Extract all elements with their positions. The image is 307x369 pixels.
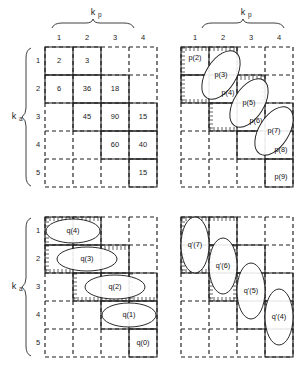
ka-label-main: k <box>12 111 17 121</box>
row-header-2: 2 <box>36 84 40 93</box>
p-label: p(5) <box>243 98 256 107</box>
kp-axis-label-right: k p <box>202 7 284 28</box>
p-label: p(2) <box>189 53 202 62</box>
panel-values: k p 1 2 3 4 k a 1 2 3 4 5 <box>12 7 157 187</box>
col-header-3: 3 <box>249 33 253 42</box>
row-header-3: 3 <box>36 112 40 121</box>
row-header-5: 5 <box>36 168 40 177</box>
p-label: p(9) <box>275 172 288 181</box>
col-header-2: 2 <box>85 33 89 42</box>
row-header-1: 1 <box>36 56 40 65</box>
ka-axis-label-bottom-left: k a <box>12 218 31 356</box>
cell-value: 15 <box>139 168 147 177</box>
cell-value: 36 <box>83 84 91 93</box>
cell-value: 6 <box>57 84 61 93</box>
column-headers-left: 1 2 3 4 <box>57 33 145 42</box>
row-header-2: 2 <box>36 254 40 263</box>
qprime-label: q'(7) <box>188 240 202 249</box>
qprime-label: q'(6) <box>216 261 230 270</box>
col-header-4: 4 <box>141 33 145 42</box>
cell-value: 18 <box>111 84 119 93</box>
ka-brace-left <box>22 48 31 186</box>
kp-brace-right <box>202 19 284 28</box>
row-header-1: 1 <box>36 226 40 235</box>
panel-p-labels: k p 1 2 3 4 <box>181 7 301 187</box>
row-headers-left: 1 2 3 4 5 <box>36 56 40 177</box>
cell-value: 90 <box>111 112 119 121</box>
ka-label-sub: a <box>19 115 23 122</box>
p-label: p(8) <box>275 145 288 154</box>
kp-axis-label-left: k p <box>52 7 134 28</box>
col-header-2: 2 <box>221 33 225 42</box>
kp-label-main-right: k <box>241 7 246 17</box>
column-headers-right: 1 2 3 4 <box>193 33 281 42</box>
ka-label-main-bl: k <box>12 281 17 291</box>
p-label: p(7) <box>268 126 281 135</box>
row-header-3: 3 <box>36 282 40 291</box>
staircase-grid-figure: k p 1 2 3 4 k a 1 2 3 4 5 <box>0 0 307 369</box>
kp-label-sub: p <box>98 11 102 19</box>
qprime-label: q'(4) <box>272 312 286 321</box>
ka-brace-bottom-left <box>22 218 31 356</box>
col-header-3: 3 <box>113 33 117 42</box>
col-header-1: 1 <box>193 33 197 42</box>
qprime-label: q'(5) <box>244 286 258 295</box>
ka-label-sub-bl: a <box>19 285 23 292</box>
q-label: q(1) <box>123 310 136 319</box>
p-label-group: p(2) p(3) p(4) p(5) p(6) p(7) p(8) p(9) <box>189 44 302 181</box>
kp-label-sub-right: p <box>248 11 252 19</box>
row-header-4: 4 <box>36 310 40 319</box>
cell-value: 45 <box>83 112 91 121</box>
row-header-4: 4 <box>36 140 40 149</box>
panel-q-labels: k a 1 2 3 4 5 <box>12 217 157 357</box>
cell-value: 3 <box>85 56 89 65</box>
kp-brace-left <box>52 19 134 28</box>
cell-value: 40 <box>139 140 147 149</box>
col-header-1: 1 <box>57 33 61 42</box>
row-headers-bottom-left: 1 2 3 4 5 <box>36 226 40 347</box>
col-header-4: 4 <box>277 33 281 42</box>
row-header-5: 5 <box>36 338 40 347</box>
q-label: q(4) <box>67 226 80 235</box>
cell-value: 2 <box>57 56 61 65</box>
ka-axis-label-left: k a <box>12 48 31 186</box>
panel-qprime-labels: q'(7) q'(6) q'(5) q'(4) <box>181 217 293 357</box>
cell-value: 15 <box>139 112 147 121</box>
figure-container: k p 1 2 3 4 k a 1 2 3 4 5 <box>0 0 307 369</box>
kp-label-main: k <box>91 7 96 17</box>
p-label: p(3) <box>215 70 228 79</box>
q-label: q(3) <box>81 254 94 263</box>
q-label: q(2) <box>109 282 122 291</box>
cell-value: 60 <box>111 140 119 149</box>
q-label: q(0) <box>137 338 150 347</box>
p-label: p(4) <box>222 88 235 97</box>
